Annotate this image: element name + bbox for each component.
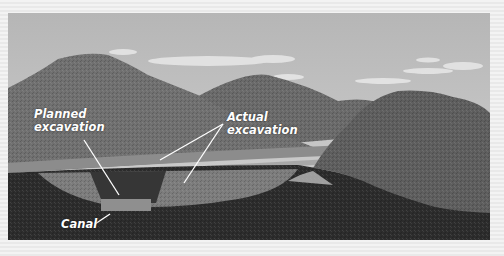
- canal-label-text: Canal: [61, 217, 97, 231]
- actual-label-line2: excavation: [227, 124, 298, 137]
- canal-rect: [101, 199, 151, 211]
- canal-label: Canal: [61, 218, 97, 231]
- actual-excavation-label: Actual excavation: [227, 111, 298, 137]
- diagram-scene: Planned excavation Actual excavation Can…: [8, 13, 490, 240]
- planned-label-line2: excavation: [34, 121, 105, 134]
- planned-excavation-label: Planned excavation: [34, 108, 105, 134]
